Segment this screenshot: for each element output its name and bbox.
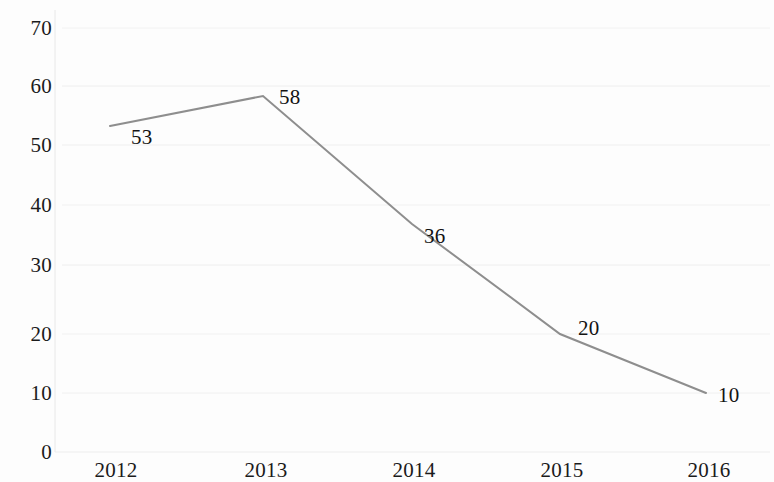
x-tick-label-2015: 2015 [541, 460, 584, 481]
gridlines [62, 28, 770, 393]
data-label-2014: 36 [424, 226, 445, 247]
x-tick-label-2012: 2012 [95, 460, 138, 481]
data-label-2012: 53 [131, 127, 152, 148]
y-tick-label-30: 30 [8, 255, 52, 276]
data-label-2013: 58 [279, 87, 300, 108]
data-label-2016: 10 [718, 385, 739, 406]
chart-page: 70 60 50 40 30 20 10 0 2012 2013 2014 20… [0, 0, 774, 482]
y-tick-label-50: 50 [8, 135, 52, 156]
x-tick-label-2016: 2016 [688, 460, 731, 481]
line-chart-svg [0, 0, 774, 482]
data-series-line [110, 96, 706, 393]
y-tick-label-10: 10 [8, 383, 52, 404]
plot-area: 70 60 50 40 30 20 10 0 2012 2013 2014 20… [0, 0, 774, 482]
y-tick-label-20: 20 [8, 324, 52, 345]
x-tick-label-2013: 2013 [245, 460, 288, 481]
y-tick-label-60: 60 [8, 76, 52, 97]
x-tick-label-2014: 2014 [393, 460, 436, 481]
data-label-2015: 20 [578, 318, 599, 339]
y-tick-label-70: 70 [8, 18, 52, 39]
y-tick-label-40: 40 [8, 195, 52, 216]
y-tick-label-0: 0 [8, 442, 52, 463]
